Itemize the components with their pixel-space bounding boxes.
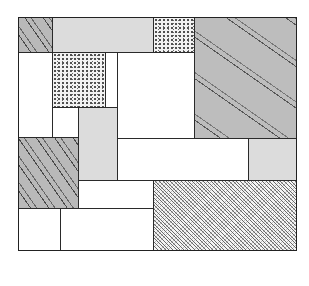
cell-left-white-column bbox=[18, 52, 53, 138]
cell-small-white bbox=[52, 107, 79, 138]
cell-middle-light bbox=[78, 107, 118, 181]
cell-lower-white bbox=[78, 180, 154, 209]
composition-frame bbox=[0, 0, 309, 286]
cell-top-stipple bbox=[153, 17, 195, 53]
cell-top-light bbox=[52, 17, 154, 53]
cell-right-diagonal bbox=[194, 17, 297, 139]
cell-bottom-left-white bbox=[18, 208, 61, 251]
cell-bottom-right-dense bbox=[153, 180, 297, 251]
cell-long-white bbox=[117, 138, 249, 181]
cell-left-hatched bbox=[18, 137, 79, 209]
cell-center-white bbox=[117, 52, 195, 139]
cell-bottom-middle-white bbox=[60, 208, 154, 251]
cell-top-left-hatched bbox=[18, 17, 53, 53]
cell-right-light bbox=[248, 138, 297, 181]
cell-middle-stipple bbox=[52, 52, 106, 108]
